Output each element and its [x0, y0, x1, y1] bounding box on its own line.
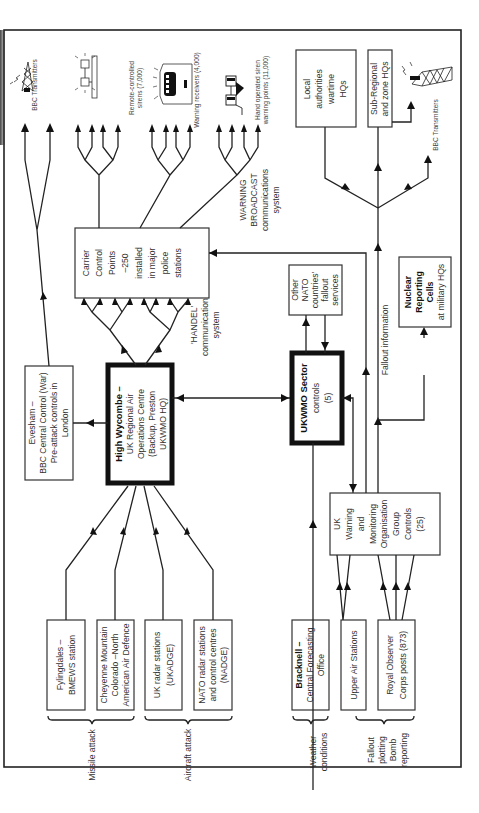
evesham-box: Evesham – BBC Central Control (War) Pre-… — [25, 366, 73, 480]
fylingdales-label-1: Fylingdales – — [55, 639, 65, 690]
svg-text:HQs: HQs — [338, 80, 348, 97]
handel-system-label: 'HANDEL' communications system — [189, 294, 221, 356]
upper-air-box: Upper Air Stations — [341, 620, 366, 710]
svg-text:Cells: Cells — [425, 281, 435, 302]
svg-text:conditions: conditions — [319, 733, 329, 772]
evesham-to-bbc-link — [25, 127, 50, 366]
svg-text:WARNING: WARNING — [238, 179, 248, 221]
svg-text:and zone HQs: and zone HQs — [380, 62, 390, 117]
svg-text:BROADCAST: BROADCAST — [249, 173, 259, 227]
svg-text:Sub-Regional: Sub-Regional — [369, 63, 379, 115]
fylingdales-box: Fylingdales – BMEWS station — [47, 620, 85, 710]
cheyenne-label-3: American Air Defence — [121, 623, 131, 706]
svg-text:Points: Points — [107, 251, 117, 275]
uk-radar-label-2: (UKADGE) — [165, 644, 175, 686]
svg-text:Warning: Warning — [344, 508, 354, 540]
svg-text:(25): (25) — [415, 516, 425, 531]
cheyenne-box: Cheyenne Mountain Colorado –North Americ… — [97, 620, 134, 710]
svg-text:Group: Group — [391, 512, 401, 536]
carrier-control-points-box: Carrier Control Points –250 installed in… — [75, 228, 209, 298]
svg-text:authorities: authorities — [314, 69, 324, 109]
remote-sirens-label: Remote-controlled sirens (7,000) — [128, 61, 144, 115]
svg-text:Nuclear: Nuclear — [403, 275, 413, 308]
svg-text:Bomb: Bomb — [388, 739, 398, 762]
nato-radar-label-1: NATO radar stations — [197, 626, 207, 704]
bracknell-label-1: Bracknell – — [294, 641, 304, 688]
svg-text:Evesham –: Evesham – — [27, 401, 37, 444]
hand-sirens-label: Hand operated siren warning points (11,0… — [254, 56, 270, 125]
svg-text:Reporting: Reporting — [414, 271, 424, 313]
svg-text:police: police — [160, 252, 170, 275]
svg-text:stations: stations — [173, 248, 183, 278]
svg-text:at military HQs: at military HQs — [436, 264, 446, 320]
warning-receivers-label: Warning receivers (4,000) — [193, 52, 201, 128]
broadcast-to-receivers-link — [140, 130, 190, 228]
sub-regional-box: Sub-Regional and zone HQs — [368, 50, 392, 127]
svg-text:installed: installed — [134, 247, 144, 279]
high-wycombe-box: High Wycombe – UK Regional Air Operation… — [108, 365, 172, 483]
svg-text:system: system — [211, 311, 221, 338]
missile-attack-brace — [48, 716, 134, 724]
svg-text:system: system — [271, 186, 281, 213]
weather-brace — [293, 716, 328, 724]
svg-text:communications: communications — [200, 294, 210, 356]
svg-text:High Wycombe –: High Wycombe – — [113, 386, 124, 461]
ukwmo-sector-box: UKWMO Sector controls (5) — [292, 353, 342, 443]
bbc-transmitters-right-label: BBC Transmitters — [432, 98, 439, 150]
svg-text:Local: Local — [302, 79, 312, 100]
svg-text:Pre-attack controls in: Pre-attack controls in — [49, 382, 59, 463]
upper-air-label: Upper Air Stations — [349, 630, 359, 699]
svg-text:UK: UK — [332, 518, 342, 530]
nuclear-reporting-box: Nuclear Reporting Cells at military HQs — [399, 257, 451, 327]
nato-radar-label-2: and control centres — [208, 628, 218, 701]
sector-nato-links — [306, 315, 325, 353]
svg-text:UK Regional Air: UK Regional Air — [125, 394, 135, 455]
svg-text:Hand operated siren: Hand operated siren — [254, 60, 262, 120]
warning-broadcast-label: WARNING BROADCAST communications system — [238, 169, 281, 231]
svg-text:BBC Central Control (War): BBC Central Control (War) — [38, 372, 48, 474]
svg-text:UKWMO HQ): UKWMO HQ) — [158, 398, 168, 450]
svg-text:controls: controls — [311, 383, 321, 413]
nato-radar-box: NATO radar stations and control centres … — [194, 620, 232, 710]
weather-label: Weather conditions — [308, 733, 329, 772]
uk-warning-system-diagram: Fylingdales – BMEWS station Cheyenne Mou… — [0, 0, 479, 813]
handel-link-left — [84, 300, 136, 365]
svg-text:plotting: plotting — [377, 736, 387, 764]
fylingdales-label-2: BMEWS station — [67, 635, 77, 695]
uk-radar-box: UK radar stations (UKADGE) — [145, 620, 182, 710]
nato-radar-label-3: (NADGE) — [219, 647, 229, 683]
aircraft-attack-brace — [145, 716, 232, 724]
bracknell-box: Bracknell – Central Forecasting Office — [292, 620, 329, 710]
cheyenne-link — [115, 486, 136, 620]
svg-text:Operations Centre: Operations Centre — [136, 389, 146, 459]
handel-link-right — [144, 300, 188, 365]
fallout-brace — [356, 716, 414, 724]
svg-text:Controls: Controls — [403, 508, 413, 540]
missile-attack-label: Missile attack — [87, 729, 97, 781]
cheyenne-label-1: Cheyenne Mountain — [99, 626, 109, 703]
svg-text:Organisation: Organisation — [379, 499, 389, 548]
roc-posts-label-1: Royal Observer — [385, 635, 395, 695]
svg-text:UKWMO Sector: UKWMO Sector — [298, 363, 309, 433]
warning-receiver-icon — [153, 64, 192, 104]
uk-radar-link — [144, 486, 163, 620]
roc-posts-box: Royal Observer Corps posts (873) — [378, 620, 415, 710]
svg-text:Monitoring: Monitoring — [368, 504, 378, 544]
roc-posts-label-2: Corps posts (873) — [398, 631, 408, 699]
warning-arrowheads — [75, 124, 261, 132]
other-nato-box: Other NATO countries' fallout services — [289, 265, 342, 315]
svg-text:Remote-controlled: Remote-controlled — [128, 61, 135, 115]
local-authorities-box: Local authorities wartime HQs — [296, 50, 356, 127]
ukwmo-group-box: UK Warning and Monitoring Organisation G… — [330, 493, 440, 555]
bracknell-label-3: Office — [316, 654, 326, 677]
svg-text:Fallout: Fallout — [366, 736, 376, 762]
svg-text:–250: –250 — [120, 253, 130, 272]
svg-text:sirens (7,000): sirens (7,000) — [136, 68, 144, 108]
uk-radar-label-1: UK radar stations — [152, 632, 162, 698]
svg-text:communications: communications — [260, 169, 270, 231]
svg-text:in major: in major — [147, 248, 157, 279]
svg-text:services: services — [330, 274, 340, 306]
hand-siren-icon — [226, 76, 244, 115]
fallout-information-label: Fallout information — [380, 304, 390, 375]
svg-text:NATO: NATO — [300, 278, 310, 301]
